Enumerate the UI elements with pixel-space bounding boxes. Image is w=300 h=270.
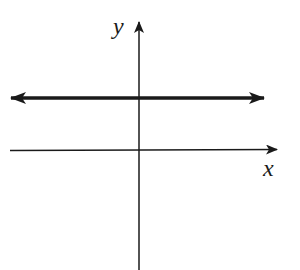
coordinate-plane: y x <box>0 0 300 270</box>
x-axis-label: x <box>262 155 274 181</box>
x-axis <box>10 150 277 151</box>
y-axis-label: y <box>111 13 124 39</box>
